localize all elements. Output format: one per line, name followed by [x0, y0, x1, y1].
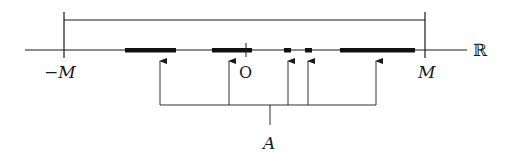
- segment-4: [305, 48, 312, 53]
- segment-1: [125, 48, 176, 53]
- segment-3: [284, 48, 291, 53]
- origin-label: O: [239, 63, 252, 82]
- number-line-diagram: ℝ −M M O A: [0, 0, 518, 162]
- set-a-bracket: [160, 105, 376, 125]
- real-axis-label: ℝ: [473, 40, 488, 60]
- minus-m-label: −M: [44, 62, 76, 82]
- set-a-label: A: [261, 133, 275, 153]
- set-a-arrows: [160, 61, 376, 105]
- segment-5: [340, 48, 415, 53]
- m-label: M: [417, 62, 436, 82]
